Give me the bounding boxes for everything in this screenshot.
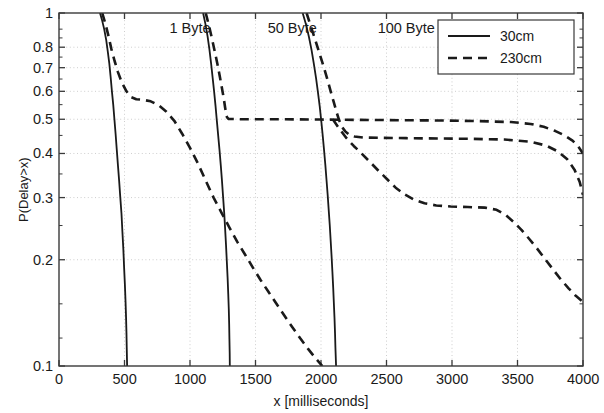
y-tick-label: 0.8 — [33, 39, 53, 55]
y-tick-label: 0.3 — [33, 190, 53, 206]
x-tick-label: 1500 — [240, 371, 272, 387]
x-tick-label: 4000 — [567, 371, 599, 387]
series-annotation: 50 Byte — [268, 20, 317, 36]
x-tick-label: 1000 — [174, 371, 206, 387]
x-tick-label: 3000 — [436, 371, 468, 387]
series-path — [303, 13, 336, 366]
y-tick-label: 0.6 — [33, 83, 53, 99]
legend-entry-label: 230cm — [500, 50, 542, 66]
x-tick-label: 3500 — [502, 371, 534, 387]
x-tick-label: 500 — [113, 371, 137, 387]
y-axis-title: P(Delay>x) — [16, 157, 31, 222]
y-tick-label: 0.2 — [33, 252, 53, 268]
x-tick-label: 0 — [55, 371, 63, 387]
series-annotation: 100 Byte — [378, 20, 435, 36]
series-path — [100, 13, 127, 366]
x-tick-label: 2000 — [305, 371, 337, 387]
y-tick-label: 0.4 — [33, 145, 53, 161]
series-path — [333, 119, 583, 302]
series-annotation: 1 Byte — [170, 20, 211, 36]
y-tick-label: 0.7 — [33, 60, 53, 76]
y-tick-label: 1 — [45, 5, 53, 21]
series-path — [203, 13, 230, 366]
chart-figure: 05001000150020002500300035004000 10.80.7… — [0, 0, 604, 413]
x-axis-title: x [milliseconds] — [274, 393, 369, 409]
legend-entry-label: 30cm — [500, 28, 534, 44]
y-tick-label: 0.5 — [33, 111, 53, 127]
y-tick-label: 0.1 — [33, 358, 53, 374]
x-tick-label: 2500 — [371, 371, 403, 387]
